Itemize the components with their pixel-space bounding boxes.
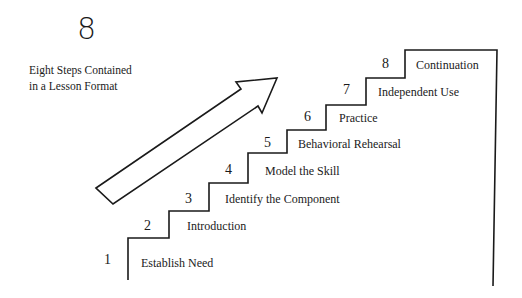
step-7-label: Independent Use xyxy=(378,85,459,99)
step-6-number: 6 xyxy=(304,110,311,124)
step-1-label: Establish Need xyxy=(141,256,213,270)
step-5-number: 5 xyxy=(264,136,271,150)
step-1-number: 1 xyxy=(104,253,111,267)
up-right-arrow-icon xyxy=(96,78,277,204)
step-5-label: Behavioral Rehearsal xyxy=(298,137,401,151)
step-6-label: Practice xyxy=(339,111,378,125)
caption-line-2: in a Lesson Format xyxy=(29,78,132,94)
step-8-label: Continuation xyxy=(416,58,479,72)
step-8-number: 8 xyxy=(382,57,389,71)
step-4-label: Model the Skill xyxy=(265,164,340,178)
caption-line-1: Eight Steps Contained xyxy=(29,62,132,78)
diagram-caption: Eight Steps Contained in a Lesson Format xyxy=(29,62,132,94)
step-3-number: 3 xyxy=(185,192,192,206)
step-2-label: Introduction xyxy=(187,219,246,233)
step-4-number: 4 xyxy=(225,163,232,177)
step-count-number: 8 xyxy=(77,14,96,44)
step-2-number: 2 xyxy=(144,219,151,233)
step-7-number: 7 xyxy=(343,83,350,97)
step-3-label: Identify the Component xyxy=(225,192,340,206)
lesson-steps-diagram: 8 Eight Steps Contained in a Lesson Form… xyxy=(0,0,522,298)
